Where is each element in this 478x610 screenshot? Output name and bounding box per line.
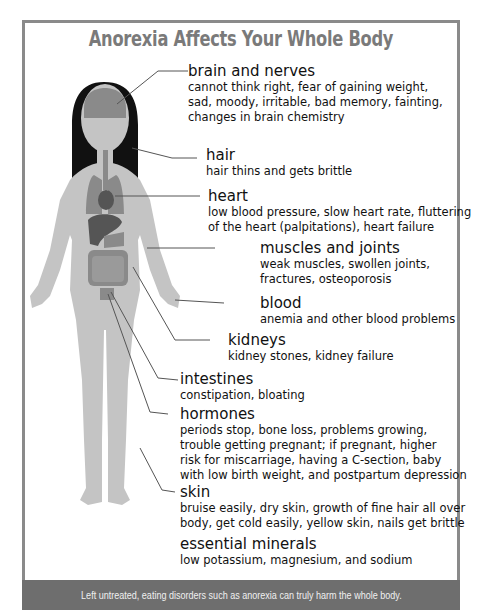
footer-text: Left untreated, eating disorders such as… xyxy=(81,580,402,610)
section-muscles-and-joints: muscles and joints weak muscles, swollen… xyxy=(260,240,430,287)
section-blood: blood anemia and other blood problems xyxy=(260,295,455,327)
heart-shape xyxy=(98,190,114,210)
section-intestines: intestines constipation, bloating xyxy=(180,371,305,403)
section-hair: hair hair thins and gets brittle xyxy=(206,147,352,179)
section-hormones: hormones periods stop, bone loss, proble… xyxy=(180,406,467,483)
section-heart: heart low blood pressure, slow heart rat… xyxy=(208,188,471,235)
footer-banner: Left untreated, eating disorders such as… xyxy=(22,580,460,610)
section-skin: skin bruise easily, dry skin, growth of … xyxy=(180,484,465,531)
section-brain-and-nerves: brain and nerves cannot think right, fea… xyxy=(188,63,443,125)
section-essential-minerals: essential minerals low potassium, magnes… xyxy=(180,536,412,568)
section-kidneys: kidneys kidney stones, kidney failure xyxy=(228,332,394,364)
